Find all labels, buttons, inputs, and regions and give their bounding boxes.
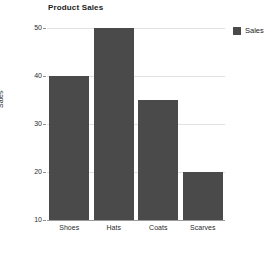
y-tick-label: 20 — [22, 168, 42, 175]
x-tick-label: Coats — [136, 224, 181, 231]
legend-swatch-sales — [233, 27, 241, 35]
bar-chart: Product Sales Sales Sales 1020304050 Sho… — [0, 0, 271, 254]
chart-legend: Sales — [233, 27, 264, 35]
y-tick-label: 10 — [22, 216, 42, 223]
y-tick-mark — [43, 220, 46, 221]
y-tick-mark — [43, 172, 46, 173]
bar[interactable] — [138, 100, 178, 220]
y-tick-mark — [43, 76, 46, 77]
x-tick-label: Shoes — [47, 224, 92, 231]
y-tick-mark — [43, 28, 46, 29]
bars-group — [47, 28, 225, 220]
y-tick-label: 50 — [22, 24, 42, 31]
y-tick-label: 30 — [22, 120, 42, 127]
bar[interactable] — [183, 172, 223, 220]
x-tick-label: Hats — [92, 224, 137, 231]
y-tick-mark — [43, 124, 46, 125]
x-tick-label: Scarves — [181, 224, 226, 231]
y-tick-label: 40 — [22, 72, 42, 79]
y-axis-title: Sales — [0, 90, 4, 108]
legend-label-sales: Sales — [245, 27, 264, 35]
chart-title: Product Sales — [48, 3, 103, 12]
bar[interactable] — [49, 76, 89, 220]
x-axis-line — [47, 220, 225, 221]
bar[interactable] — [94, 28, 134, 220]
